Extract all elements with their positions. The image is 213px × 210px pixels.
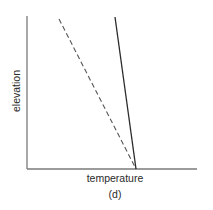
elevation-temperature-diagram: elevation temperature (d) — [0, 0, 213, 210]
y-axis-label: elevation — [10, 70, 22, 112]
panel-label: (d) — [109, 188, 122, 200]
x-axis-label: temperature — [87, 172, 144, 184]
solid-profile-line — [115, 17, 136, 169]
dashed-profile-line — [59, 19, 136, 169]
